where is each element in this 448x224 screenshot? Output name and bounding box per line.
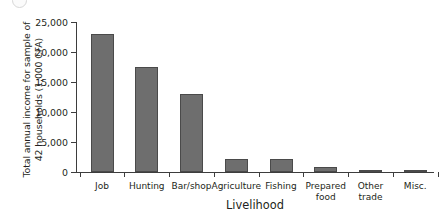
y-tick-mark [71,112,76,113]
x-tick-label: Fishing [265,181,296,192]
cropped-circle-artifact [12,0,27,8]
x-tick-mark [124,172,125,177]
y-axis-title: Total annual income for sample of 42 hou… [21,20,44,180]
y-tick-mark [71,172,76,173]
bar-chart-figure: Total annual income for sample of 42 hou… [0,0,448,224]
x-tick-mark [259,172,260,177]
bar [135,67,158,172]
y-tick-mark [71,142,76,143]
x-tick-label: Misc. [404,181,427,192]
y-tick-mark [71,52,76,53]
bar [270,159,293,172]
y-tick-label: 10,000 [35,107,68,118]
y-tick-label: 25,000 [35,17,68,28]
x-tick-mark [169,172,170,177]
bar [91,34,114,172]
y-tick-label: 0 [62,167,68,178]
bar [404,170,427,172]
bar [314,167,337,172]
plot-area: 25,00020,00015,00010,0005,0000 JobHuntin… [76,22,434,172]
y-tick-label: 15,000 [35,77,68,88]
y-tick-label: 5,000 [41,137,68,148]
y-tick-mark [71,82,76,83]
y-axis-line [76,22,77,172]
x-axis-line [76,172,434,173]
y-tick-label: 20,000 [35,47,68,58]
x-tick-mark [80,172,81,177]
x-tick-mark [303,172,304,177]
x-tick-label: Agriculture [212,181,262,192]
bar [225,159,248,172]
bar [359,170,382,172]
x-tick-mark [393,172,394,177]
x-tick-mark [214,172,215,177]
x-axis-title: Livelihood [76,198,434,212]
x-tick-mark [438,172,439,177]
x-tick-label: Job [95,181,109,192]
x-tick-label: Bar/shop [171,181,211,192]
y-tick-mark [71,22,76,23]
x-tick-label: Hunting [129,181,165,192]
bar [180,94,203,172]
x-tick-mark [348,172,349,177]
